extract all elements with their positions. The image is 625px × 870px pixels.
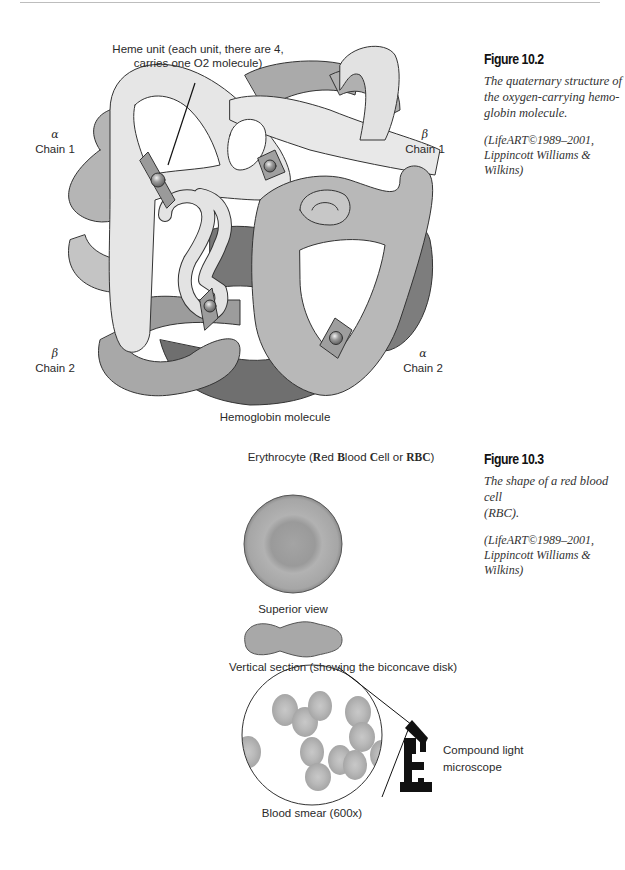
figure-caption: The quaternary structure of the oxygen-c…	[484, 73, 624, 121]
vertical-section-label: Vertical section (showing the biconcave …	[218, 660, 468, 674]
figure-credit: (LifeART©1989–2001, Lippincott Williams …	[484, 533, 624, 578]
figure-10-3-caption-block: Figure 10.3 The shape of a red blood cel…	[484, 450, 624, 578]
alpha-symbol: α	[30, 128, 80, 142]
alpha-symbol: α	[398, 347, 448, 361]
beta-chain-1-label: β Chain 1	[400, 128, 450, 156]
beta-symbol: β	[400, 128, 450, 142]
figure-10-2-caption-block: Figure 10.2 The quaternary structure of …	[484, 50, 624, 178]
rbc-vertical-section	[245, 622, 342, 657]
figure-caption: The shape of a red blood cell (RBC).	[484, 473, 624, 521]
blood-smear-label: Blood smear (600x)	[257, 806, 367, 820]
heme-unit-label: Heme unit (each unit, there are 4, carri…	[108, 42, 288, 70]
rbc-superior-view	[244, 495, 342, 593]
figure-credit: (LifeART©1989–2001, Lippincott Williams …	[484, 133, 624, 178]
figure-title: Figure 10.3	[484, 450, 599, 467]
hemoglobin-molecule-label: Hemoglobin molecule	[200, 410, 350, 424]
blood-smear-view	[235, 665, 412, 805]
figure-title: Figure 10.2	[484, 50, 599, 67]
superior-view-label: Superior view	[243, 602, 343, 616]
alpha-chain-1-label: α Chain 1	[30, 128, 80, 156]
microscope-label: Compound light microscope	[443, 742, 533, 776]
alpha-chain-2-label: α Chain 2	[398, 347, 448, 375]
beta-chain-2-label: β Chain 2	[30, 347, 80, 375]
erythrocyte-heading: Erythrocyte (Red Blood Cell or RBC)	[236, 450, 446, 464]
beta-symbol: β	[30, 347, 80, 361]
microscope-icon	[400, 720, 432, 792]
